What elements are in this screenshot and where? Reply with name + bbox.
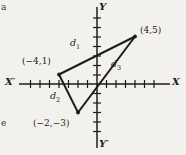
segment-label-d3: d3 — [111, 59, 121, 71]
axis-label-x-negative: X′ — [5, 77, 15, 87]
margin-text-left-lower: e — [1, 118, 6, 128]
axis-label-y-positive: Y — [99, 2, 106, 12]
axis-label-x-positive: X — [172, 77, 180, 87]
vertex-b — [133, 35, 137, 39]
y-axis — [93, 7, 101, 148]
axis-label-y-negative: Y′ — [99, 139, 109, 149]
segment-label-d2-sub: 2 — [56, 96, 60, 104]
segment-label-d1-sub: 1 — [76, 43, 80, 51]
segment-label-d1: d1 — [70, 38, 80, 50]
point-label-a: (−4,1) — [22, 57, 51, 66]
margin-text-top-left: a — [1, 2, 6, 12]
vertex-c — [76, 111, 80, 115]
point-label-c: (−2,−3) — [33, 119, 69, 128]
coordinate-figure — [0, 0, 186, 155]
point-label-b: (4,5) — [140, 26, 161, 35]
x-axis — [19, 80, 170, 88]
segment-d3 — [78, 37, 135, 113]
segment-label-d3-sub: 3 — [117, 64, 121, 72]
segment-label-d2: d2 — [50, 91, 60, 103]
vertex-a — [57, 73, 61, 77]
